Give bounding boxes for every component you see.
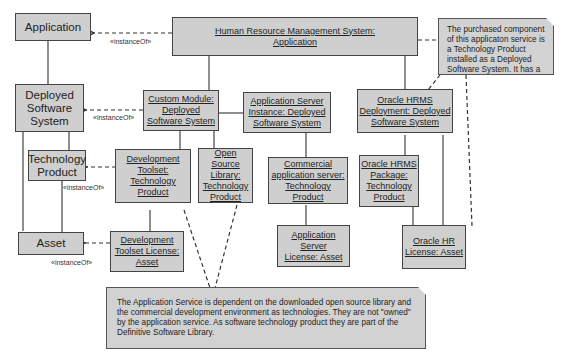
instance-label-line: Technology <box>130 176 176 187</box>
class-label-line: Technology <box>28 153 86 166</box>
instance-label-line: Technology <box>366 181 412 192</box>
instance-label-line: Software System <box>371 117 439 128</box>
instance-app-server-license[interactable]: Application Server License: Asset <box>277 225 350 267</box>
instance-label-line: License: Asset <box>405 247 463 258</box>
instance-label-line: Asset <box>136 257 159 268</box>
class-label-line: Deployed <box>25 89 74 102</box>
instance-oracle-hrms-deployment[interactable]: Oracle HRMS Deployment: Deployed Softwar… <box>357 89 453 133</box>
instance-label-line: Application <box>273 37 317 48</box>
instance-label-line: Product <box>210 192 241 203</box>
instance-label-line: Technology Product <box>269 181 347 203</box>
instance-label-line: Deployment: Deployed <box>359 106 450 117</box>
instance-dev-toolset-license[interactable]: Development Toolset License: Asset <box>110 231 184 272</box>
stereotype-label: «instanceOf» <box>93 114 134 121</box>
instance-label-line: Application Server <box>278 230 349 252</box>
instance-label-line: Product <box>137 187 168 198</box>
instance-label-line: Oracle HR <box>413 236 455 247</box>
instance-custom-module[interactable]: Custom Module: Deployed Software System <box>143 90 219 131</box>
instance-label-line: Instance: Deployed <box>248 107 325 118</box>
instance-oracle-hr-license[interactable]: Oracle HR License: Asset <box>402 225 466 269</box>
instance-dev-toolset[interactable]: Development Toolset: Technology Product <box>115 149 191 203</box>
instance-label-line: Oracle HRMS <box>377 95 433 106</box>
instance-label-line: Toolset: <box>137 165 168 176</box>
instance-label-line: Human Resource Management System: <box>215 26 375 37</box>
instance-label-line: Library: <box>210 170 240 181</box>
instance-label-line: Application Server <box>250 96 323 107</box>
class-label-line: System <box>30 115 68 128</box>
instance-label-line: Product <box>373 192 404 203</box>
instance-label-line: Open Source <box>199 148 252 170</box>
instance-label-line: Toolset License: <box>115 246 180 257</box>
class-label-line: Software <box>27 102 72 115</box>
instance-label-line: application server: <box>271 170 344 181</box>
instance-label-line: Package: <box>370 170 408 181</box>
instance-label-line: License: Asset <box>284 252 342 263</box>
instance-oracle-hrms-package[interactable]: Oracle HRMS Package: Technology Product <box>359 155 419 207</box>
instance-label-line: Development <box>120 235 173 246</box>
instance-label-line: Deployed <box>162 105 200 116</box>
note-top-right: The purchased component of this applicat… <box>438 18 554 75</box>
instance-commercial-app-server[interactable]: Commercial application server: Technolog… <box>268 157 348 204</box>
stereotype-label: «instanceOf» <box>63 184 104 191</box>
instance-label-line: Software System <box>253 118 321 129</box>
instance-hrms-application[interactable]: Human Resource Management System: Applic… <box>172 17 418 56</box>
instance-label-line: Oracle HRMS <box>361 159 417 170</box>
class-label: Application <box>25 21 81 34</box>
stereotype-label: «instanceOf» <box>51 259 92 266</box>
note-bottom: The Application Service is dependent on … <box>106 287 426 349</box>
class-technology-product[interactable]: Technology Product <box>28 150 86 181</box>
class-application[interactable]: Application <box>15 13 91 41</box>
instance-label-line: Software System <box>147 116 215 127</box>
note-text: The Application Service is dependent on … <box>117 298 411 337</box>
instance-label-line: Development <box>126 154 179 165</box>
class-asset[interactable]: Asset <box>18 232 84 255</box>
class-label-line: Product <box>37 166 77 179</box>
instance-label-line: Technology <box>203 181 249 192</box>
class-label: Asset <box>37 237 66 250</box>
class-deployed-software-system[interactable]: Deployed Software System <box>15 84 84 132</box>
instance-label-line: Custom Module: <box>148 94 214 105</box>
instance-open-source-library[interactable]: Open Source Library: Technology Product <box>198 148 253 203</box>
stereotype-label: «instanceOf» <box>110 38 151 45</box>
instance-app-server[interactable]: Application Server Instance: Deployed So… <box>243 92 331 133</box>
instance-label-line: Commercial <box>284 159 332 170</box>
